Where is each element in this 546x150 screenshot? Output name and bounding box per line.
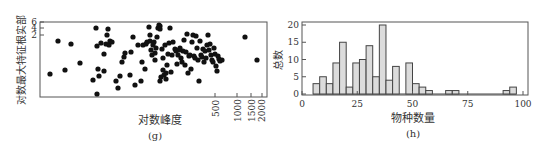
y-axis-label-h: 总数 [272,50,284,70]
data-point [254,57,259,62]
scatter-points [47,22,259,96]
data-point [211,45,216,50]
y-tick-label: 15 [288,37,300,47]
scatter-panel-g: 6 4 2 500 1000 1500 2000 对数峰度 (g) 对数最大特征… [15,15,267,141]
data-point [96,73,101,78]
data-point [219,57,224,62]
data-point [182,62,187,67]
data-point [157,26,162,31]
data-point [184,31,189,36]
data-point [128,49,133,54]
data-point [153,45,158,50]
data-point [98,40,103,45]
panel-label-h: (h) [406,128,420,139]
data-point [151,39,156,44]
y-axis-label-g: 对数最大特征根实部 [15,15,27,105]
data-point [168,69,173,74]
x-tick-label: 75 [462,99,474,109]
x-tick-label: 50 [407,99,419,109]
data-point [77,60,82,65]
data-point [146,24,151,29]
histogram-bar [313,84,320,94]
data-point [47,71,52,76]
data-point [196,78,201,83]
data-point [138,78,143,83]
data-point [174,61,179,66]
panel-label-g: (g) [148,130,162,141]
data-point [152,57,157,62]
y-tick-label: 0 [293,89,299,99]
data-point [181,37,186,42]
y-tick-label: 10 [288,55,300,65]
data-point [105,26,110,31]
data-point [160,55,165,60]
x-tick-1000: 1000 [233,99,243,122]
data-point [154,34,159,39]
histogram-bar [346,87,353,94]
histogram-bar [340,42,347,94]
data-point [214,68,219,73]
data-point [163,70,168,75]
histogram-bar [393,66,400,94]
data-point [203,55,208,60]
data-point [213,63,218,68]
histogram-bar [366,46,373,94]
data-point [104,32,109,37]
data-point [115,85,120,90]
histogram-bar [379,25,386,94]
histogram-bar [406,63,413,94]
data-point [163,76,168,81]
data-point [135,42,140,47]
data-point [142,66,147,71]
data-point [164,62,169,67]
x-tick-label: 100 [514,99,531,109]
histogram-panel-h: 051015200255075100 物种数量 (h) 总数 [272,20,532,139]
histogram-bar [503,91,510,94]
histogram-bar [359,60,366,95]
histogram-bars [313,25,516,94]
histogram-bar [452,91,459,94]
data-point [205,32,210,37]
data-point [167,25,172,30]
histogram-bar [386,80,393,94]
x-tick-500: 500 [211,100,221,117]
x-tick-2000: 2000 [257,99,267,122]
data-point [68,41,73,46]
data-point [170,39,175,44]
data-point [152,50,157,55]
data-point [194,45,199,50]
histogram-bar [413,84,420,94]
data-point [90,77,95,82]
histogram-bar [373,77,380,94]
x-tick-label: 25 [352,99,364,109]
data-point [117,73,122,78]
data-point [139,59,144,64]
x-tick-label: 0 [299,99,305,109]
y-tick-2: 2 [31,30,37,40]
histogram-bar [353,63,360,94]
data-point [193,33,198,38]
histogram-bar [419,87,426,94]
data-point [132,82,137,87]
histogram-bar [426,91,433,94]
data-point [206,47,211,52]
data-point [119,59,124,64]
data-point [127,72,132,77]
x-axis-label-g: 对数峰度 [138,113,182,127]
data-point [147,32,152,37]
data-point [197,38,202,43]
data-point [101,51,106,56]
data-point [188,66,193,71]
data-point [62,67,67,72]
data-point [101,68,106,73]
data-point [242,34,247,39]
y-tick-label: 5 [293,72,299,82]
histogram-bar [446,91,453,94]
data-point [130,34,135,39]
data-point [93,25,98,30]
figure-canvas: 6 4 2 500 1000 1500 2000 对数峰度 (g) 对数最大特征… [0,0,546,150]
data-point [55,38,60,43]
data-point [109,39,114,44]
data-point [94,91,99,96]
data-point [95,66,100,71]
